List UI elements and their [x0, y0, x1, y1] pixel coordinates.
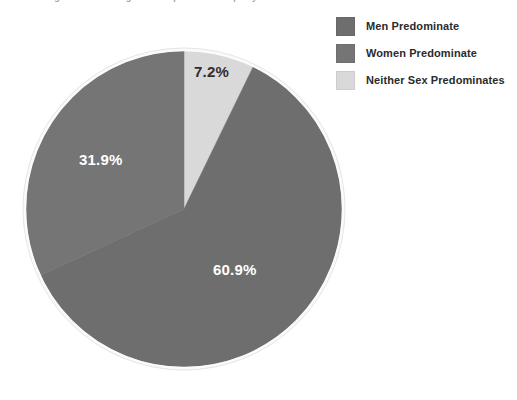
legend-item-label: Women Predominate [366, 47, 477, 59]
legend-item[interactable]: Women Predominate [336, 41, 514, 65]
legend-swatch-icon [336, 17, 355, 36]
legend-item-label: Men Predominate [366, 20, 459, 32]
legend-swatch-icon [336, 71, 355, 90]
chart-canvas: Figure 1. Percentage of Occupational Gro… [0, 0, 517, 400]
chart-legend: Men PredominateWomen PredominateNeither … [336, 14, 514, 95]
pie-slice-group [23, 48, 345, 370]
legend-item-label: Neither Sex Predominates [366, 74, 505, 86]
legend-item[interactable]: Men Predominate [336, 14, 514, 38]
pie-slice-label-women: 31.9% [79, 151, 123, 168]
pie-slice-label-men: 60.9% [213, 261, 257, 278]
legend-item[interactable]: Neither Sex Predominates [336, 68, 514, 92]
legend-swatch-icon [336, 44, 355, 63]
pie-slice-label-neither: 7.2% [194, 63, 229, 80]
